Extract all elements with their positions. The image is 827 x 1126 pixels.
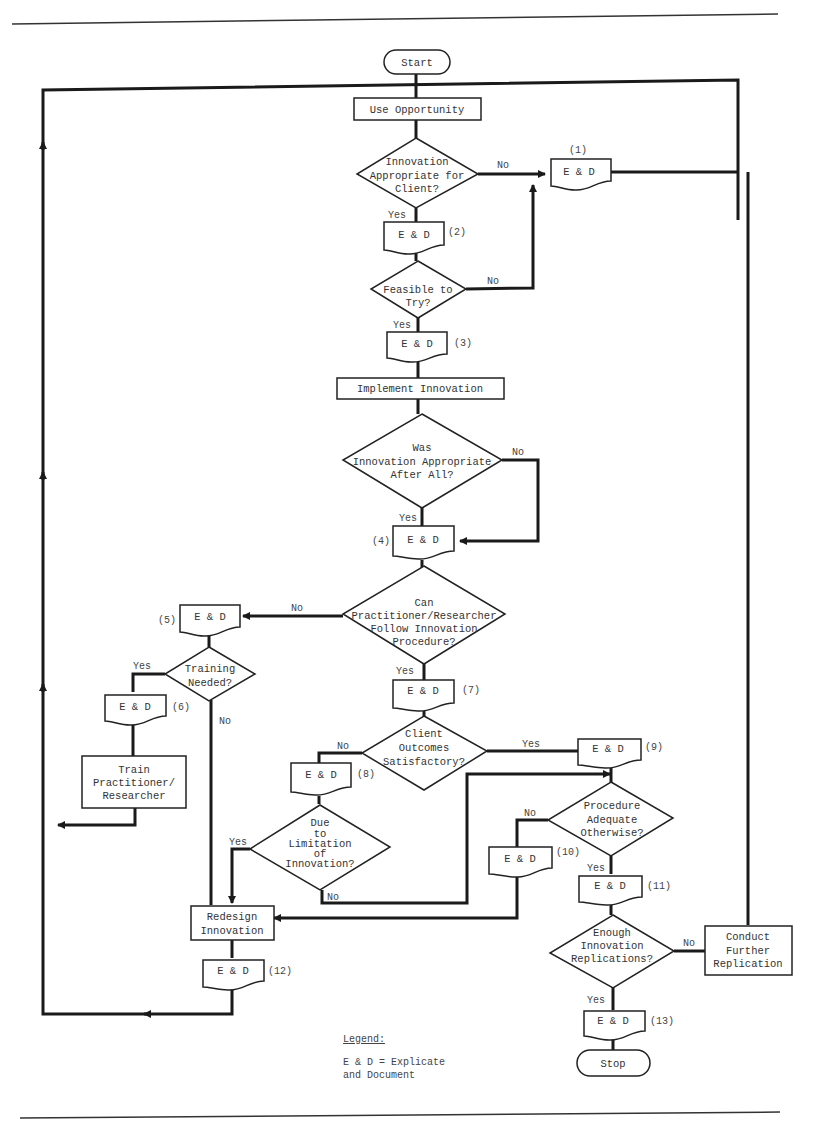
svg-text:(3): (3) [454,338,472,349]
process-conduct-replication: Conduct Further Replication [705,926,792,975]
top-rule [12,14,778,24]
label-no-d1: No [497,160,509,171]
doc-ed-13: E & D (13) [584,1011,674,1040]
svg-text:Needed?: Needed? [188,677,232,689]
svg-text:(2): (2) [448,227,466,238]
label-no-outcomes: No [337,741,349,752]
svg-text:Procedure: Procedure [584,800,641,812]
decision-can-follow-procedure: Can Practitioner/Researcher Follow Innov… [343,566,505,664]
label-yes-replications: Yes [587,995,605,1006]
label-no-follow: No [291,603,303,614]
svg-text:(11): (11) [647,881,671,892]
svg-text:Adequate: Adequate [587,814,637,826]
legend: Legend: E & D = Explicate and Document [343,1034,445,1081]
svg-text:Researcher: Researcher [102,790,165,802]
svg-text:Implement Innovation: Implement Innovation [357,383,483,395]
decision-appropriate-for-client: Innovation Appropriate for Client? [357,138,478,208]
svg-text:Innovation: Innovation [580,940,643,952]
svg-text:Train: Train [118,764,150,776]
label-yes-limitation: Yes [229,837,247,848]
doc-ed-11: E & D (11) [579,876,671,905]
svg-text:Enough: Enough [593,927,631,939]
svg-text:Replication: Replication [713,958,782,970]
label-yes-follow: Yes [396,666,414,677]
doc-ed-4: E & D (4) [372,526,454,559]
svg-text:(6): (6) [172,702,190,713]
svg-text:Replications?: Replications? [571,953,653,965]
decision-enough-replications: Enough Innovation Replications? [550,915,674,988]
edge-limitation-yes [232,849,250,903]
svg-text:Conduct: Conduct [726,931,770,943]
doc-ed-9: E & D (9) [578,739,663,768]
decision-due-to-limitation: Due to Limitation of Innovation? [250,805,390,890]
decision-appropriate-after-all: Was Innovation Appropriate After All? [343,414,502,508]
label-no-adequate: No [524,808,536,819]
svg-text:Innovation: Innovation [385,156,448,168]
process-train: Train Practitioner/ Researcher [82,756,186,808]
svg-text:Start: Start [401,57,433,69]
svg-text:Client: Client [405,728,443,740]
legend-title: Legend: [343,1034,385,1045]
svg-text:E & D: E & D [597,1015,629,1027]
svg-text:E & D: E & D [217,965,249,977]
decision-procedure-adequate: Procedure Adequate Otherwise? [548,782,673,856]
decision-feasible: Feasible to Try? [371,261,466,318]
start-terminal: Start [384,50,450,74]
label-yes-feasible: Yes [393,320,411,331]
svg-text:Redesign: Redesign [207,911,257,923]
label-no-limitation: No [327,892,339,903]
label-yes-afterall: Yes [399,513,417,524]
process-use-opportunity: Use Opportunity [354,98,481,120]
svg-text:(10): (10) [556,847,580,858]
process-redesign: Redesign Innovation [191,906,274,940]
svg-text:Follow Innovation: Follow Innovation [370,623,477,635]
svg-text:(5): (5) [158,615,176,626]
edge-train-loop [58,808,135,825]
svg-text:(8): (8) [357,769,375,780]
svg-text:E & D: E & D [194,611,226,623]
bottom-rule [20,1112,780,1118]
svg-text:After All?: After All? [390,469,453,481]
legend-line-1: E & D = Explicate [343,1057,445,1068]
svg-text:Appropriate for: Appropriate for [370,170,465,182]
svg-text:Satisfactory?: Satisfactory? [383,756,465,768]
svg-text:Procedure?: Procedure? [392,636,455,648]
svg-text:E & D: E & D [305,769,337,781]
label-yes-training: Yes [133,661,151,672]
svg-text:(9): (9) [645,742,663,753]
label-yes-d1: Yes [388,210,406,221]
svg-text:E & D: E & D [504,853,536,865]
svg-text:E & D: E & D [407,685,439,697]
legend-line-2: and Document [343,1070,415,1081]
label-no-afterall: No [512,447,524,458]
svg-text:E & D: E & D [592,743,624,755]
svg-text:(12): (12) [268,966,292,977]
doc-ed-5: E & D (5) [158,605,240,636]
svg-text:E & D: E & D [401,338,433,350]
label-yes-outcomes: Yes [522,739,540,750]
label-no-feasible: No [487,276,499,287]
svg-text:Otherwise?: Otherwise? [580,827,643,839]
process-implement-innovation: Implement Innovation [337,378,504,399]
svg-text:E & D: E & D [119,701,151,713]
label-no-training: No [219,716,231,727]
edge-adequate-no [517,820,548,847]
svg-text:E & D: E & D [407,534,439,546]
svg-text:Training: Training [185,663,235,675]
svg-text:E & D: E & D [398,229,430,241]
edge-training-yes [133,674,165,692]
svg-text:Can: Can [415,597,434,609]
svg-text:Innovation: Innovation [200,925,263,937]
svg-text:Stop: Stop [600,1058,625,1070]
svg-text:(7): (7) [462,685,480,696]
svg-text:Innovation?: Innovation? [285,858,354,870]
doc-ed-1: E & D (1) [551,145,611,190]
doc-ed-8: E & D (8) [291,763,375,795]
svg-text:Feasible to: Feasible to [383,284,452,296]
svg-text:Further: Further [726,945,770,957]
doc-ed-7: E & D (7) [393,680,480,711]
svg-text:(13): (13) [650,1016,674,1027]
doc-ed-2: E & D (2) [384,222,466,254]
doc-ed-10: E & D (10) [489,847,580,877]
svg-text:Innovation Appropriate: Innovation Appropriate [353,456,492,468]
